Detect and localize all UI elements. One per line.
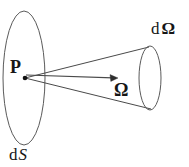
solid-angle-figure: P dΩ Ω dS xyxy=(0,0,189,167)
label-axis-omega: Ω xyxy=(114,81,128,99)
label-ds-d: d xyxy=(9,145,18,164)
label-domega-d: d xyxy=(151,19,160,38)
label-point-p: P xyxy=(10,58,21,76)
label-ds-s: S xyxy=(18,145,28,164)
vertex-point-dot xyxy=(23,76,28,81)
label-domega-omega: Ω xyxy=(160,19,176,38)
label-surface-ds: dS xyxy=(9,146,27,163)
label-cone-base-domega: dΩ xyxy=(151,20,175,37)
